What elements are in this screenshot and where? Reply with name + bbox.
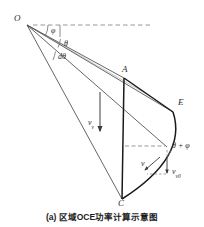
velocity-label-vv: vv: [88, 119, 94, 129]
velocity-vv0-sub: v0: [176, 173, 181, 179]
angle-arc-dtheta: [53, 52, 56, 61]
angle-label-dtheta: dθ: [58, 53, 66, 61]
arc-C-to-E: [122, 112, 176, 199]
velocity-label-v: v: [141, 160, 145, 168]
point-label-A: A: [122, 65, 128, 74]
angle-label-theta-plus-phi: θ + φ: [172, 142, 190, 150]
segment-A-to-E: [124, 78, 173, 112]
angle-arc-phi: [46, 25, 48, 35]
figure-caption: (a) 区域OCE功率计算示意图: [0, 210, 204, 222]
arrow-v-tangent: [145, 157, 160, 170]
ray-O-to-P: [27, 25, 167, 147]
angle-label-theta: θ: [64, 40, 68, 48]
point-label-C: C: [118, 199, 124, 208]
velocity-label-vv0: vv0: [172, 168, 181, 178]
point-label-E: E: [178, 98, 184, 107]
ray-theta-marker: [27, 25, 150, 96]
point-label-O: O: [14, 14, 21, 23]
velocity-vv-sub: v: [92, 124, 94, 130]
angle-label-phi: φ: [51, 27, 55, 35]
geometry-diagram: [0, 0, 204, 227]
velocity-v-base: v: [141, 159, 145, 168]
segment-A-to-C: [122, 78, 124, 199]
figure-container: O A E C φ θ dθ θ + φ vv v vv0 (a) 区域OCE功…: [0, 0, 204, 227]
